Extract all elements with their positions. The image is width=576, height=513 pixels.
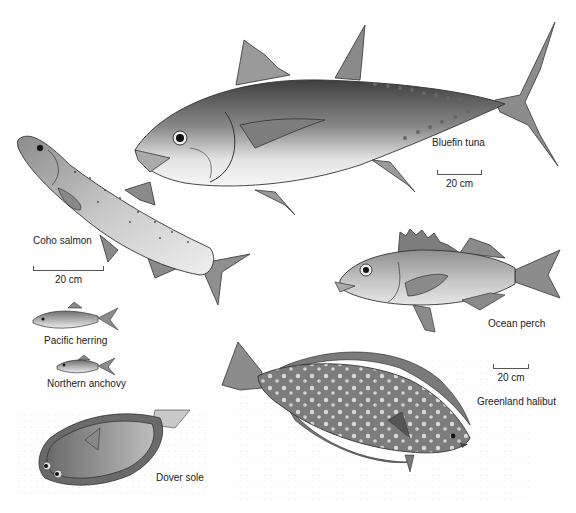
label-coho-salmon: Coho salmon bbox=[33, 235, 92, 246]
fish-illustration-canvas bbox=[0, 0, 576, 513]
label-greenland-halibut: Greenland halibut bbox=[477, 396, 556, 407]
scale-bar-coho-salmon: 20 cm bbox=[33, 266, 104, 285]
scale-bar-line bbox=[493, 364, 529, 369]
scale-bar-line bbox=[33, 266, 104, 271]
scale-bar-line bbox=[437, 170, 482, 175]
label-pacific-herring: Pacific herring bbox=[44, 335, 107, 346]
scale-bar-bluefin-tuna: 20 cm bbox=[437, 170, 482, 189]
pacific-herring-drawing bbox=[33, 302, 118, 330]
scale-bar-label: 20 cm bbox=[33, 274, 104, 285]
scale-bar-ocean-perch: 20 cm bbox=[493, 364, 529, 383]
label-northern-anchovy: Northern anchovy bbox=[47, 378, 126, 389]
ocean-perch-drawing bbox=[335, 229, 560, 332]
label-dover-sole: Dover sole bbox=[156, 472, 204, 483]
label-ocean-perch: Ocean perch bbox=[488, 318, 545, 329]
scale-bar-label: 20 cm bbox=[493, 372, 529, 383]
northern-anchovy-drawing bbox=[57, 355, 115, 375]
scale-bar-label: 20 cm bbox=[437, 178, 482, 189]
label-bluefin-tuna: Bluefin tuna bbox=[432, 137, 485, 148]
bluefin-tuna-drawing bbox=[135, 22, 558, 215]
greenland-halibut-drawing bbox=[222, 342, 530, 500]
